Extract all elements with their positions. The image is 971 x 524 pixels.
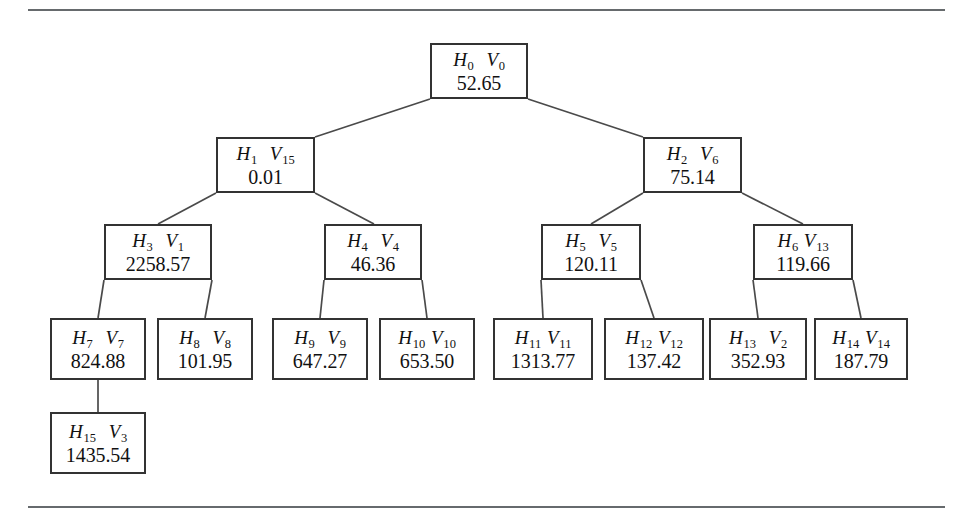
node-v-subscript: 1 [178,240,184,254]
node-v-subscript: 6 [712,153,718,167]
node-h-subscript: 13 [743,337,756,351]
tree-node-n2[interactable]: H2V675.14 [643,137,742,193]
node-identifier-row: H2V6 [667,144,719,163]
node-v-label: V10 [431,328,456,347]
node-value: 46.36 [351,254,396,274]
node-value: 824.88 [71,351,125,371]
tree-node-n6[interactable]: H6V13119.66 [753,224,853,280]
tree-node-n11[interactable]: H11V111313.77 [493,318,593,380]
node-value: 1313.77 [511,351,575,371]
node-h-subscript: 11 [529,337,541,351]
tree-node-n0[interactable]: H0V052.65 [430,43,528,99]
node-h-label: H9 [294,328,314,347]
node-v-subscript: 9 [340,337,346,351]
tree-node-n8[interactable]: H8V8101.95 [157,318,253,380]
node-v-subscript: 0 [499,59,505,73]
tree-edge-n6-n14 [853,280,861,318]
tree-node-n4[interactable]: H4V446.36 [324,224,422,280]
node-v-label: V9 [328,328,346,347]
node-identifier-row: H0V0 [453,50,505,69]
tree-node-n12[interactable]: H12V12137.42 [604,318,704,380]
node-v-label: V2 [769,328,787,347]
node-identifier-row: H15V3 [69,422,127,441]
node-v-subscript: 12 [670,337,683,351]
node-h-subscript: 0 [468,59,474,73]
node-value: 647.27 [293,351,347,371]
tree-node-n5[interactable]: H5V5120.11 [541,224,641,280]
tree-edge-n2-n5 [591,193,643,224]
node-v-subscript: 14 [877,337,890,351]
tree-node-n3[interactable]: H3V12258.57 [104,224,212,280]
node-identifier-row: H14V14 [832,328,890,347]
node-v-subscript: 15 [282,153,295,167]
node-identifier-row: H7V7 [72,328,124,347]
node-h-subscript: 4 [362,240,368,254]
node-identifier-row: H11V11 [515,328,572,347]
node-h-label: H12 [625,328,652,347]
node-v-subscript: 8 [225,337,231,351]
node-v-label: V11 [547,328,571,347]
node-h-label: H13 [729,328,756,347]
node-v-subscript: 3 [121,431,127,445]
node-h-label: H8 [179,328,199,347]
tree-node-n15[interactable]: H15V31435.54 [50,412,146,474]
tree-node-n9[interactable]: H9V9647.27 [272,318,368,380]
node-h-label: H0 [453,50,473,69]
node-h-label: H6 [777,231,797,250]
node-identifier-row: H5V5 [565,231,617,250]
node-h-label: H5 [565,231,585,250]
tree-edge-n6-n13 [753,280,758,318]
tree-node-n1[interactable]: H1V150.01 [216,137,315,193]
tree-edge-n2-n6 [742,193,803,224]
tree-node-n14[interactable]: H14V14187.79 [814,318,908,380]
node-h-label: H11 [515,328,541,347]
node-v-subscript: 5 [611,240,617,254]
node-v-label: V4 [381,231,399,250]
node-v-subscript: 7 [118,337,124,351]
node-identifier-row: H8V8 [179,328,231,347]
tree-node-n13[interactable]: H13V2352.93 [709,318,807,380]
node-value: 352.93 [731,351,785,371]
node-value: 137.42 [627,351,681,371]
node-h-subscript: 10 [413,337,426,351]
node-value: 120.11 [564,254,618,274]
node-v-label: V13 [804,231,829,250]
node-identifier-row: H1V15 [236,144,294,163]
node-v-label: V8 [213,328,231,347]
node-h-subscript: 14 [847,337,860,351]
node-identifier-row: H9V9 [294,328,346,347]
tree-edge-n5-n12 [641,280,654,318]
node-h-subscript: 8 [194,337,200,351]
node-h-subscript: 6 [792,240,798,254]
node-value: 2258.57 [126,254,190,274]
node-identifier-row: H13V2 [729,328,787,347]
node-h-label: H7 [72,328,92,347]
node-v-label: V0 [487,50,505,69]
node-v-label: V3 [109,422,127,441]
node-h-subscript: 12 [640,337,653,351]
tree-node-n10[interactable]: H10V10653.50 [379,318,475,380]
node-value: 119.66 [776,254,830,274]
tree-edge-n0-n2 [528,99,643,137]
node-h-label: H1 [236,144,256,163]
node-h-subscript: 5 [580,240,586,254]
node-value: 52.65 [457,73,502,93]
node-h-subscript: 1 [251,153,257,167]
node-identifier-row: H4V4 [347,231,399,250]
tree-edge-n1-n3 [158,193,216,224]
tree-node-n7[interactable]: H7V7824.88 [50,318,146,380]
node-h-label: H4 [347,231,367,250]
tree-edge-n5-n11 [541,280,543,318]
node-h-subscript: 3 [147,240,153,254]
tree-edge-n3-n8 [205,280,212,318]
node-value: 75.14 [670,167,715,187]
tree-edge-n4-n9 [320,280,324,318]
node-identifier-row: H12V12 [625,328,683,347]
node-v-label: V1 [166,231,184,250]
node-h-label: H14 [832,328,859,347]
node-v-label: V5 [599,231,617,250]
node-value: 1435.54 [66,445,130,465]
tree-edge-n3-n7 [98,280,104,318]
node-v-subscript: 4 [393,240,399,254]
node-v-label: V15 [270,144,295,163]
